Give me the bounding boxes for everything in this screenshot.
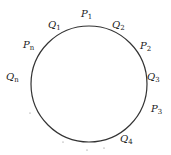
label-q3: Q3 bbox=[147, 71, 160, 84]
label-qn: Qn bbox=[6, 71, 19, 84]
circle-diagram: P1Q1Q2PnP2QnQ3P3Q4 bbox=[0, 0, 171, 155]
label-p2: P2 bbox=[139, 40, 151, 53]
circle bbox=[31, 26, 147, 142]
label-p3: P3 bbox=[150, 103, 162, 116]
label-q1: Q1 bbox=[48, 19, 61, 32]
label-q2: Q2 bbox=[112, 19, 125, 32]
label-pn: Pn bbox=[22, 39, 35, 52]
label-q4: Q4 bbox=[120, 133, 133, 146]
label-p1: P1 bbox=[80, 8, 92, 21]
